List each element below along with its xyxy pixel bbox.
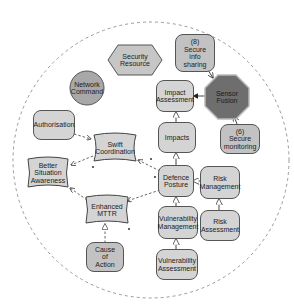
anchor-dot <box>92 166 94 168</box>
edge-swift-to-awareness <box>71 156 93 165</box>
node-label: (6) Secure monitoring <box>224 128 257 151</box>
node-label: Risk Management <box>200 175 241 190</box>
anchor-dot <box>128 228 130 230</box>
node-secure-info-sharing[interactable]: (8) Secure info sharing <box>175 34 215 72</box>
node-vulnerability-management[interactable]: Vulnerability Management <box>158 206 198 239</box>
edge-defence-to-mttr <box>127 190 160 201</box>
node-risk-management[interactable]: Risk Management <box>200 166 240 199</box>
node-better-situation-awareness-shape[interactable] <box>28 157 68 187</box>
node-label: Defence Posture <box>163 174 189 189</box>
node-swift-coordination-shape[interactable] <box>94 133 136 161</box>
node-enhanced-mttr-shape[interactable] <box>86 195 128 223</box>
node-sensor-fusion-shape[interactable] <box>205 75 249 119</box>
node-network-command-shape[interactable] <box>70 71 104 105</box>
diagram-canvas <box>0 0 294 308</box>
node-label: Risk Assessment <box>201 218 239 233</box>
anchor-dot <box>150 158 152 160</box>
node-label: Vulnerability Management <box>158 215 199 230</box>
node-secure-monitoring[interactable]: (6) Secure monitoring <box>220 124 260 154</box>
node-impact-assessment[interactable]: Impact Assessment <box>156 80 194 112</box>
anchor-dot <box>154 176 156 178</box>
node-risk-assessment[interactable]: Risk Assessment <box>200 210 240 241</box>
node-security-resource-shape[interactable] <box>108 45 162 75</box>
node-label: Vulnerability Assessment <box>158 257 196 272</box>
node-label: Authorisation <box>34 121 75 129</box>
edge-authorisation-to-swift <box>74 134 91 139</box>
node-vulnerability-assessment[interactable]: Vulnerability Assessment <box>156 249 198 280</box>
edge-defence-to-swift <box>138 160 160 171</box>
node-label: (8) Secure info sharing <box>184 38 207 68</box>
node-label: Impact Assessment <box>156 89 194 104</box>
node-defence-posture[interactable]: Defence Posture <box>158 165 194 197</box>
node-label: Cause of Action <box>95 246 115 269</box>
node-label: Impacts <box>165 134 190 142</box>
node-authorisation[interactable]: Authorisation <box>33 110 75 140</box>
edge-mttr-to-awareness <box>70 188 87 200</box>
node-cause-of-action[interactable]: Cause of Action <box>86 242 124 272</box>
node-impacts[interactable]: Impacts <box>158 122 196 153</box>
